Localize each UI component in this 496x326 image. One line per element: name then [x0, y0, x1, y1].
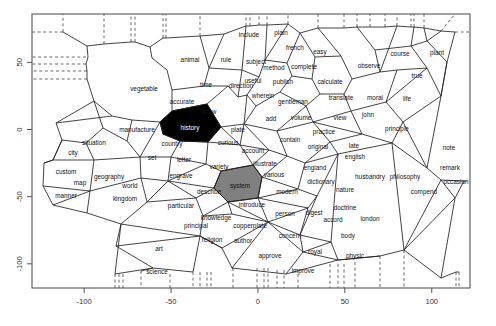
cell-word-label: various [264, 171, 285, 178]
cell-word-label: royal [308, 248, 322, 256]
cell-word-label: include [239, 31, 260, 38]
cell-word-label: science [146, 268, 168, 275]
cell-word-label: remark [440, 164, 461, 171]
cell-word-label: modern [276, 188, 298, 195]
cell-word-label: english [345, 153, 366, 161]
cell-word-label: life [403, 95, 412, 102]
cell-word-label: account [242, 147, 265, 154]
y-tick-label: 50 [15, 58, 24, 66]
cell-word-label: vegetable [130, 85, 158, 93]
cell-word-label: describe [197, 188, 222, 195]
cell-word-label: course [390, 50, 410, 57]
cell-word-label: england [304, 164, 327, 172]
cell-word-label: city [68, 149, 78, 157]
cell-word-label: note [443, 144, 456, 151]
cell-word-label: doctrine [334, 204, 357, 211]
cell-word-label: publish [273, 78, 294, 86]
cell-word-label: french [286, 44, 304, 51]
cell-word-label: geography [94, 173, 125, 181]
cell-word-label: useful [244, 77, 261, 84]
cell-word-label: show [202, 108, 217, 115]
y-tick-label: -100 [15, 256, 24, 271]
cell-word-label: history [181, 124, 201, 132]
cell-word-label: accurate [170, 98, 195, 105]
cell-word-label: author [234, 237, 253, 244]
cell-word-label: method [263, 64, 285, 71]
cell-word-label: husbandry [355, 173, 386, 181]
cell-word-label: original [308, 143, 329, 151]
cell-word-label: rule [221, 56, 232, 63]
cell-word-label: true [411, 72, 422, 79]
cell-word-label: approve [258, 252, 282, 260]
cell-word-label: plate [231, 126, 245, 134]
cell-word-label: easy [313, 48, 327, 56]
cell-word-label: calculate [317, 78, 343, 85]
figure-background [0, 0, 496, 326]
cell-word-label: manufacture [119, 126, 155, 133]
cell-word-label: person [275, 210, 295, 218]
cell-word-label: accord [323, 216, 343, 223]
cell-word-label: add [266, 115, 277, 122]
cell-word-label: situation [82, 139, 106, 146]
figure-canvas: -100-50050100 500-50-100 animalruleinclu… [0, 0, 496, 326]
cell-word-label: copperplate [233, 222, 267, 230]
cell-word-label: engrave [169, 172, 193, 180]
x-tick-label: 0 [256, 297, 260, 306]
cell-word-label: moral [367, 94, 383, 101]
cell-word-label: occasion [443, 178, 469, 185]
cell-word-label: plain [274, 29, 288, 37]
cell-word-label: london [360, 215, 380, 222]
cell-word-label: animal [181, 56, 200, 63]
cell-word-label: curious [218, 139, 239, 146]
cell-word-label: compend [411, 188, 438, 196]
cell-word-label: country [162, 140, 184, 148]
cell-word-label: introduce [239, 201, 266, 208]
cell-word-label: physic [346, 252, 365, 260]
cell-word-label: concern [279, 232, 302, 239]
cell-word-label: complete [291, 63, 317, 71]
cell-word-label: system [230, 182, 250, 190]
cell-word-label: john [361, 111, 375, 119]
cell-word-label: knowledge [201, 214, 232, 222]
cell-word-label: art [155, 245, 163, 252]
cell-word-label: kingdom [113, 195, 137, 203]
cell-word-label: late [349, 142, 360, 149]
cell-word-label: particular [168, 202, 195, 210]
cell-word-label: dictionary [307, 178, 335, 186]
cell-word-label: manner [55, 192, 78, 199]
x-tick-label: -100 [77, 297, 92, 306]
x-tick-label: 50 [341, 297, 349, 306]
cell-word-label: illustrate [253, 160, 277, 167]
cell-word-label: digest [305, 209, 322, 217]
x-tick-label: 100 [425, 297, 438, 306]
cell-word-label: view [334, 114, 347, 121]
cell-word-label: improve [292, 267, 315, 275]
cell-word-label: principle [385, 125, 409, 133]
cell-word-label: custom [56, 168, 77, 175]
cell-word-label: variety [210, 163, 230, 171]
cell-word-label: body [341, 232, 356, 240]
cell-word-label: world [121, 182, 138, 189]
y-tick-label: 0 [15, 127, 24, 131]
voronoi-word-map-figure: -100-50050100 500-50-100 animalruleinclu… [0, 0, 496, 326]
cell-word-label: practice [313, 128, 336, 136]
cell-word-label: map [74, 179, 87, 187]
cell-word-label: time [200, 81, 213, 88]
cell-word-label: nature [336, 186, 355, 193]
cell-word-label: letter [177, 156, 192, 163]
cell-word-label: plant [430, 49, 444, 57]
cell-word-label: principal [184, 222, 208, 230]
cell-word-label: gentleman [278, 98, 308, 106]
cell-word-label: volume [291, 114, 312, 121]
cell-word-label: set [148, 154, 157, 161]
cell-word-label: religion [202, 236, 223, 244]
cell-word-label: wherein [251, 92, 275, 99]
cell-word-label: observe [358, 62, 381, 69]
cell-word-label: translate [329, 94, 354, 101]
x-tick-label: -50 [166, 297, 177, 306]
cell-word-label: philosophy [390, 173, 421, 181]
y-tick-label: -50 [15, 191, 24, 202]
cell-word-label: contain [280, 136, 301, 143]
